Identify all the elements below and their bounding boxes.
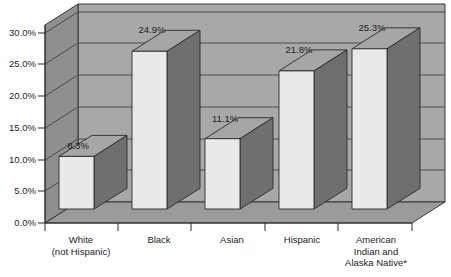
x-category-label-american-indian-line-3: Alaska Native* (330, 257, 422, 269)
x-category-label-american-indian-line-1: American (330, 234, 422, 246)
bar-front-face (59, 156, 94, 209)
bar-black[interactable] (132, 30, 200, 209)
y-tick-label-30: 30.0% (0, 28, 36, 38)
x-axis (45, 223, 412, 231)
bar-value-label-asian: 11.1% (203, 114, 247, 124)
bar-side-face (387, 28, 420, 209)
bar-chart: 30.0% 25.0% 20.0% 15.0% 10.0% 5.0% 0.0% … (0, 0, 451, 277)
bar-front-face (205, 139, 240, 209)
bar-value-label-american-indian: 25.3% (350, 23, 394, 33)
x-category-label-white-line-1: White (36, 234, 126, 246)
y-axis (38, 25, 45, 223)
y-tick-label-0: 0.0% (0, 218, 36, 228)
bar-american-indian-alaska-native[interactable] (352, 28, 420, 209)
x-category-label-white: White (not Hispanic) (36, 234, 126, 257)
y-tick-label-25: 25.0% (0, 59, 36, 69)
y-tick-label-15: 15.0% (0, 123, 36, 133)
bar-value-label-black: 24.9% (130, 25, 174, 35)
x-category-label-american-indian: American Indian and Alaska Native* (330, 234, 422, 269)
bar-side-face (314, 50, 347, 209)
bar-front-face (132, 51, 167, 209)
bar-value-label-white: 8.3% (58, 141, 98, 151)
x-category-label-american-indian-line-2: Indian and (330, 246, 422, 258)
bar-value-label-hispanic: 21.8% (277, 45, 321, 55)
bar-hispanic[interactable] (279, 50, 347, 209)
y-tick-label-20: 20.0% (0, 91, 36, 101)
bar-front-face (279, 71, 314, 209)
x-category-label-white-line-2: (not Hispanic) (36, 246, 126, 258)
y-tick-label-10: 10.0% (0, 155, 36, 165)
bar-side-face (167, 30, 200, 209)
bar-front-face (352, 49, 387, 209)
y-tick-label-5: 5.0% (0, 186, 36, 196)
